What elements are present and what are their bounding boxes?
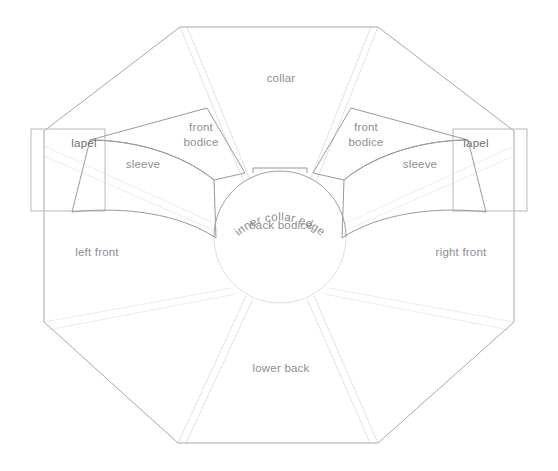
label-right-front: right front (436, 246, 487, 258)
label-lapel-left: lapel (71, 137, 96, 149)
seam-line-bottom-left-a (178, 296, 246, 443)
back-bodice-lower-arc (214, 237, 346, 303)
seam-line-lower-right-a (328, 288, 514, 322)
seam-line-upper-right-b (310, 27, 371, 180)
front-bodice-right-panel (313, 108, 468, 180)
seam-line-bottom-right-a (314, 296, 378, 443)
label-sleeve-right: sleeve (403, 158, 437, 170)
front-bodice-left-panel (90, 108, 245, 180)
seam-line-upper-right-a (316, 27, 378, 182)
label-lower-back: lower back (253, 362, 310, 374)
label-collar: collar (267, 72, 296, 84)
octagon-outline (44, 27, 514, 443)
garment-pattern-svg: collar front bodice front bodice lapel l… (0, 0, 558, 471)
label-front-bodice-left-line2: bodice (183, 136, 218, 148)
seam-lines-group (44, 27, 514, 443)
label-back-bodice: back bodice (249, 219, 313, 231)
sleeve-right-outer-edge (468, 140, 486, 212)
sleeve-right-panel (342, 140, 486, 238)
seam-line-upper-left-a (180, 27, 244, 182)
seam-line-bottom-left-b (186, 299, 253, 443)
label-front-bodice-right-line2: bodice (348, 136, 383, 148)
seam-line-lower-right-b (324, 294, 510, 330)
seam-line-upper-left-b (187, 27, 250, 180)
seam-line-lower-left-b (48, 294, 236, 330)
label-left-front: left front (75, 246, 119, 258)
sleeve-left-outer-edge (72, 140, 90, 212)
seam-line-bottom-right-b (307, 299, 370, 443)
label-front-bodice-left-line1: front (189, 121, 214, 133)
label-front-bodice-right-line1: front (354, 121, 379, 133)
seam-line-lower-left-a (44, 288, 232, 322)
label-sleeve-left: sleeve (126, 158, 160, 170)
label-lapel-right: lapel (463, 137, 488, 149)
pattern-diagram-canvas: collar front bodice front bodice lapel l… (0, 0, 558, 471)
sleeve-left-panel (72, 140, 216, 238)
